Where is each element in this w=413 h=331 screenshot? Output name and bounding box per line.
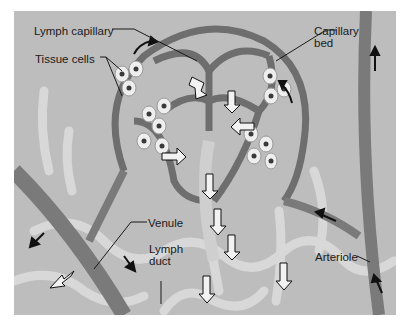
label-tissue-cells: Tissue cells bbox=[35, 53, 95, 65]
capillary-bed-diagram: Lymph capillary Tissue cells Capillary b… bbox=[14, 11, 396, 315]
label-arteriole: Arteriole bbox=[315, 251, 358, 263]
label-lymph-duct-line2: duct bbox=[149, 255, 171, 267]
label-venule: Venule bbox=[148, 217, 183, 229]
label-lymph-capillary: Lymph capillary bbox=[34, 25, 113, 37]
label-capillary-bed-line2: bed bbox=[314, 37, 333, 49]
label-capillary-bed-line1: Capillary bbox=[314, 25, 359, 37]
label-lymph-duct-line1: Lymph bbox=[149, 243, 183, 255]
central-lymph-duct bbox=[205, 141, 214, 261]
